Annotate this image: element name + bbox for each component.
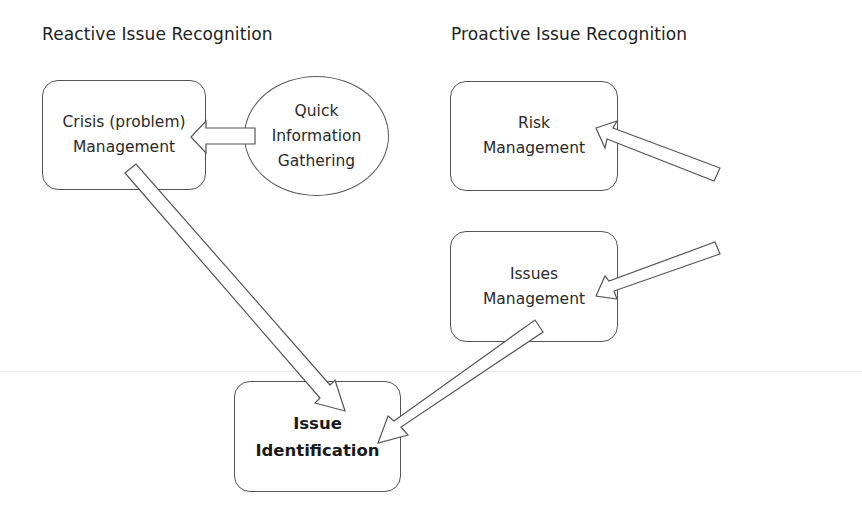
arrow-crisis-to-identification bbox=[125, 164, 345, 411]
reactive-heading: Reactive Issue Recognition bbox=[42, 24, 273, 44]
crisis-line1: Crisis (problem) bbox=[62, 110, 185, 135]
issues-management-node: Issues Management bbox=[450, 231, 618, 342]
proactive-heading: Proactive Issue Recognition bbox=[451, 24, 687, 44]
crisis-line2: Management bbox=[62, 135, 185, 160]
issues-line2: Management bbox=[483, 287, 585, 312]
risk-line1: Risk bbox=[483, 111, 585, 136]
identification-line2: Identification bbox=[255, 437, 379, 464]
identification-line1: Issue bbox=[255, 410, 379, 437]
quick-line1: Quick bbox=[272, 99, 362, 124]
quick-line2: Information bbox=[272, 124, 362, 149]
risk-line2: Management bbox=[483, 136, 585, 161]
arrows-layer bbox=[0, 0, 862, 511]
quick-line3: Gathering bbox=[272, 149, 362, 174]
issues-line1: Issues bbox=[483, 262, 585, 287]
crisis-management-node: Crisis (problem) Management bbox=[42, 80, 206, 190]
separator-line bbox=[0, 371, 862, 372]
risk-management-node: Risk Management bbox=[450, 81, 618, 191]
issue-identification-node: Issue Identification bbox=[234, 381, 401, 492]
quick-information-gathering-node: Quick Information Gathering bbox=[244, 76, 389, 196]
